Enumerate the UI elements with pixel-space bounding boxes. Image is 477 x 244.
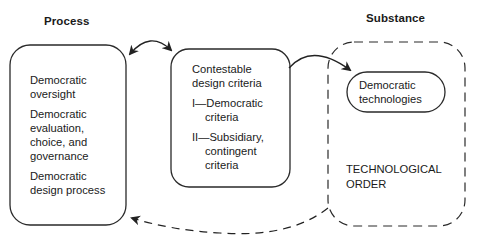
criteria-text: I—Democratic (192, 96, 290, 110)
criteria-subsidiary: II—Subsidiary, contingent criteria (192, 130, 290, 172)
process-heading: Process (44, 15, 89, 27)
criteria-title: Contestable design criteria (192, 62, 290, 90)
process-box: Democratic oversight Democratic evaluati… (30, 73, 125, 203)
criteria-title-text: Contestable (192, 62, 290, 76)
process-item-text: evaluation, (30, 121, 125, 135)
technological-order-text: TECHNOLOGICAL (346, 162, 461, 177)
technologies-text: Democratic (359, 78, 443, 92)
criteria-democratic: I—Democratic criteria (192, 96, 290, 124)
criteria-text: contingent (192, 144, 290, 158)
process-item-evaluation: Democratic evaluation, choice, and gover… (30, 107, 125, 163)
substance-heading: Substance (366, 12, 425, 24)
substance-to-process-dashed-arrow (132, 208, 328, 234)
democratic-technologies: Democratic technologies (359, 78, 443, 106)
process-item-oversight: Democratic oversight (30, 73, 125, 101)
criteria-text: criteria (192, 158, 290, 172)
criteria-to-technologies-arrow (289, 55, 350, 70)
criteria-title-text: design criteria (192, 76, 290, 90)
process-item-text: design process (30, 183, 125, 197)
process-item-text: choice, and (30, 135, 125, 149)
technologies-text: technologies (359, 92, 443, 106)
bidirectional-arrow (130, 41, 171, 54)
criteria-box: Contestable design criteria I—Democratic… (192, 62, 290, 178)
technological-order: TECHNOLOGICAL ORDER (346, 162, 461, 192)
process-item-text: governance (30, 149, 125, 163)
process-item-text: Democratic (30, 107, 125, 121)
criteria-text: criteria (192, 110, 290, 124)
process-item-text: oversight (30, 87, 125, 101)
process-item-text: Democratic (30, 73, 125, 87)
process-item-design-process: Democratic design process (30, 169, 125, 197)
technological-order-text: ORDER (346, 177, 461, 192)
criteria-text: II—Subsidiary, (192, 130, 290, 144)
process-item-text: Democratic (30, 169, 125, 183)
